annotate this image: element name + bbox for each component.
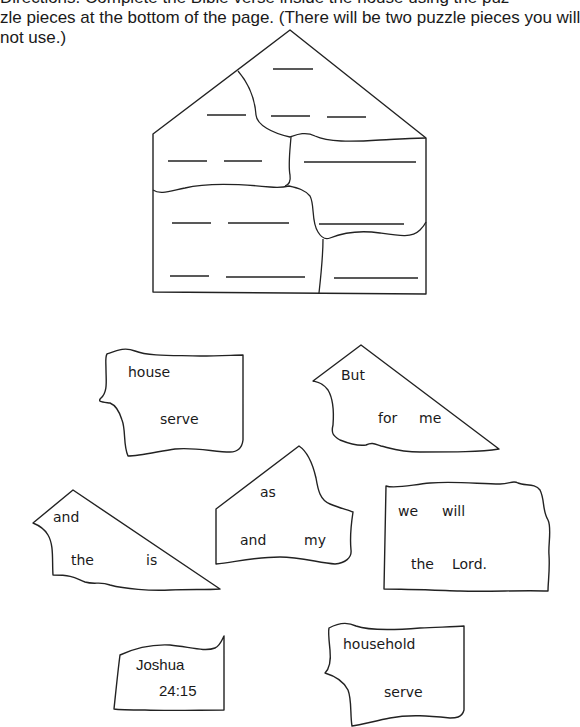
- house-diagram: [153, 30, 426, 294]
- piece-word: serve: [384, 684, 423, 700]
- piece-word: the: [71, 552, 94, 568]
- puzzle-piece-house-serve[interactable]: house serve: [100, 349, 243, 456]
- piece-word: But: [341, 367, 365, 383]
- piece-word: Joshua: [136, 656, 185, 673]
- puzzle-piece-as-and-my[interactable]: as and my: [216, 446, 353, 564]
- piece-word: serve: [160, 411, 199, 427]
- puzzle-piece-we-will-the-lord[interactable]: we will the Lord.: [384, 482, 550, 591]
- piece-word: and: [53, 509, 79, 525]
- puzzle-piece-joshua-reference[interactable]: Joshua 24:15: [114, 636, 224, 710]
- piece-word: will: [442, 503, 465, 519]
- piece-word: is: [146, 552, 157, 568]
- piece-word: for: [378, 410, 397, 426]
- piece-word: house: [128, 364, 170, 380]
- puzzle-piece-but-for-me[interactable]: But for me: [313, 345, 499, 452]
- piece-word: the: [411, 556, 434, 572]
- puzzle-piece-and-the-is[interactable]: and the is: [33, 490, 220, 590]
- piece-word: and: [240, 532, 266, 548]
- piece-word: we: [398, 503, 418, 519]
- piece-word: 24:15: [159, 682, 197, 699]
- piece-word: household: [343, 636, 415, 652]
- piece-word: Lord.: [452, 556, 487, 572]
- piece-word: me: [419, 410, 441, 426]
- puzzle-piece-household-serve[interactable]: household serve: [325, 624, 464, 726]
- piece-word: as: [260, 484, 276, 500]
- piece-word: my: [304, 532, 326, 548]
